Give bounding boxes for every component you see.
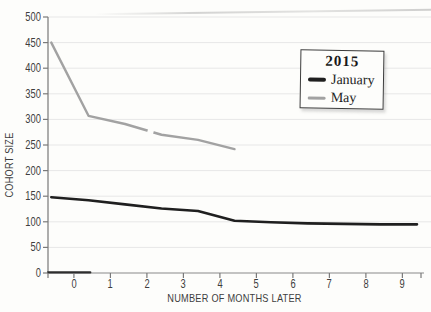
y-tick-label: 100 bbox=[11, 215, 41, 229]
legend-label-january: January bbox=[331, 72, 375, 89]
x-axis-title: NUMBER OF MONTHS LATER bbox=[85, 292, 383, 304]
y-tick-label: 0 bbox=[11, 266, 41, 280]
x-tick-label: 4 bbox=[209, 277, 231, 290]
may-line-swatch bbox=[308, 96, 326, 99]
legend-label-may: May bbox=[331, 90, 357, 106]
x-tick-label: 9 bbox=[392, 277, 414, 290]
y-tick-label: 450 bbox=[11, 36, 41, 50]
x-tick-label: 2 bbox=[136, 277, 158, 290]
y-tick-label: 200 bbox=[11, 164, 41, 178]
x-tick-label: 3 bbox=[173, 277, 195, 290]
x-tick-label: 0 bbox=[63, 277, 85, 290]
january-line-swatch bbox=[308, 78, 326, 82]
y-tick-label: 50 bbox=[11, 240, 41, 254]
y-tick-label: 500 bbox=[11, 10, 41, 24]
plot-area bbox=[0, 0, 431, 312]
y-tick-label: 350 bbox=[11, 87, 41, 101]
legend-item-january: January bbox=[301, 71, 383, 88]
y-tick-label: 250 bbox=[11, 138, 41, 152]
y-tick-label: 400 bbox=[11, 61, 41, 75]
y-axis-title: COHORT SIZE bbox=[3, 132, 15, 197]
legend: 2015 January May bbox=[300, 49, 385, 109]
legend-title: 2015 bbox=[301, 52, 383, 70]
x-tick-label: 6 bbox=[282, 277, 304, 290]
legend-item-may: May bbox=[301, 89, 383, 106]
cohort-line-chart: 050100150200250300350400450500 012345678… bbox=[0, 0, 431, 312]
y-tick-label: 150 bbox=[11, 189, 41, 203]
x-tick-label: 7 bbox=[319, 277, 341, 290]
y-tick-label: 300 bbox=[11, 112, 41, 126]
x-tick-label: 5 bbox=[246, 277, 268, 290]
x-tick-label: 1 bbox=[100, 277, 122, 290]
x-tick-label: 8 bbox=[355, 277, 377, 290]
